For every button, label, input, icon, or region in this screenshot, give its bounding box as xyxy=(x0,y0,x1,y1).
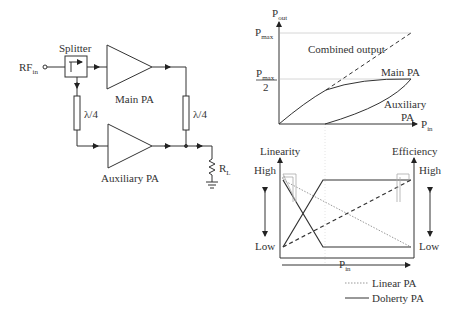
legend-linear-label: Linear PA xyxy=(372,277,417,289)
pin-label-bottom: Pin xyxy=(339,258,351,273)
linearity-label: Linearity xyxy=(260,145,301,157)
rf-in-label: RFin xyxy=(19,61,38,76)
load-resistor xyxy=(209,159,215,175)
doherty-diagram: RFin Splitter Main PA λ/4 λ/4 Auxiliary … xyxy=(0,0,458,317)
quarter-wave-line-left xyxy=(74,96,80,130)
main-pa-triangle xyxy=(107,45,152,89)
pout-chart: Pout Pmax Pmax 2 Combined output Main PA… xyxy=(255,7,433,265)
efficiency-label: Efficiency xyxy=(392,145,438,157)
input-port-icon xyxy=(43,65,47,69)
linearity-efficiency-chart: Linearity Efficiency High Low High Low P… xyxy=(254,145,442,304)
quarter-wave-line-right xyxy=(183,96,189,130)
main-pa-label: Main PA xyxy=(115,93,154,105)
splitter-block xyxy=(65,56,87,77)
aux-pa-curve-label-1: Auxiliary xyxy=(384,98,427,110)
main-pa-curve-label: Main PA xyxy=(381,66,420,78)
high-left-label: High xyxy=(254,164,277,176)
aux-pa-label: Auxiliary PA xyxy=(101,172,159,184)
circuit-schematic: RFin Splitter Main PA λ/4 λ/4 Auxiliary … xyxy=(19,42,231,188)
tline-left-label: λ/4 xyxy=(84,108,98,120)
tline-right-label: λ/4 xyxy=(193,108,207,120)
pin-axis-label: Pin xyxy=(421,118,433,133)
legend-doherty-label: Doherty PA xyxy=(372,292,424,304)
low-right-label: Low xyxy=(419,240,439,252)
main-pa-curve xyxy=(326,79,411,90)
pmax-half-den: 2 xyxy=(263,81,269,93)
aux-pa-triangle xyxy=(108,124,152,168)
aux-pa-curve-label-2: PA xyxy=(401,111,414,123)
combined-output-label: Combined output xyxy=(308,43,385,55)
combined-output-curve xyxy=(326,33,411,90)
pout-axis-label: Pout xyxy=(272,7,287,22)
pmax-label: Pmax xyxy=(255,26,274,41)
load-label: RL xyxy=(219,162,231,177)
splitter-label: Splitter xyxy=(59,42,92,54)
high-right-label: High xyxy=(419,164,442,176)
low-left-label: Low xyxy=(255,240,275,252)
